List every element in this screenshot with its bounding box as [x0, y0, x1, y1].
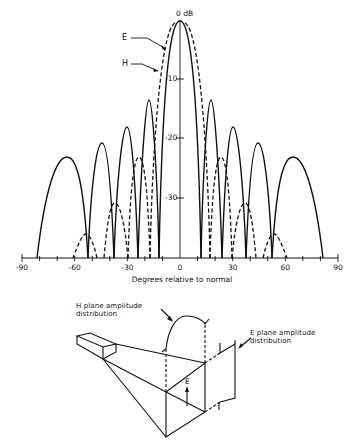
e-plane-label: E plane amplitude distribution: [250, 329, 315, 345]
y-tick-label-minus30: -30: [165, 194, 177, 202]
h-plane-label-line1: H plane amplitude: [76, 302, 142, 310]
x-tick-label: 90: [333, 264, 343, 272]
x-tick-label: 0: [178, 264, 183, 272]
x-tick-label: 30: [228, 264, 238, 272]
h-plane-label: H plane amplitude distribution: [76, 302, 142, 318]
radiation-pattern-chart: [0, 0, 354, 443]
x-tick-label: -60: [69, 264, 81, 272]
e-h-leaders: [131, 38, 166, 71]
x-axis-title: Degrees relative to normal: [132, 276, 232, 284]
e-plane-label-line1: E plane amplitude: [250, 329, 315, 337]
h-plane-label-line2: distribution: [76, 310, 142, 318]
h-curve-label: H: [122, 60, 128, 68]
x-tick-label: -30: [121, 264, 133, 272]
e-curve-label: E: [122, 34, 127, 42]
e-field-label: E: [185, 378, 190, 386]
x-tick-label: -90: [16, 264, 28, 272]
x-tick-label: 60: [281, 264, 291, 272]
horn-antenna-drawing: [77, 309, 251, 437]
y-tick-label-minus10: -10: [165, 75, 177, 83]
y-tick-label-0db: 0 dB: [176, 10, 193, 18]
e-plane-label-line2: distribution: [250, 337, 315, 345]
y-tick-label-minus20: -20: [165, 134, 177, 142]
